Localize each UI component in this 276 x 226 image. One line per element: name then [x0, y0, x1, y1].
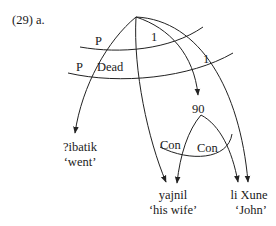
label-Con-right: Con [197, 141, 219, 155]
label-Dead: Dead [97, 60, 124, 74]
label-P-lower: P [76, 60, 83, 74]
arc-root-to-verb [75, 17, 136, 133]
object-gloss: ‘his wife’ [149, 203, 197, 217]
object-word: yajnil [159, 188, 188, 202]
label-P-upper: P [95, 34, 102, 48]
label-1-lower: 1 [203, 52, 209, 66]
subject-gloss: ‘John’ [235, 203, 267, 217]
label-1-upper: 1 [151, 30, 157, 44]
arc-root-to-node-90 [136, 17, 198, 95]
relational-network-diagram: (29) a. P 1 P Dead 1 Con Con 90 ?ibatik … [0, 0, 276, 226]
verb-word: ?ibatik [63, 140, 98, 154]
example-number: (29) a. [12, 13, 45, 27]
node-90-label: 90 [192, 102, 205, 116]
verb-gloss: ‘went’ [64, 155, 97, 169]
label-Con-left: Con [160, 138, 182, 152]
subject-word: li Xune [230, 188, 268, 202]
